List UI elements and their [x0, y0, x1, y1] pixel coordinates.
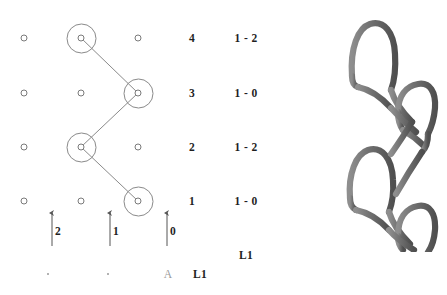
loop-1-leg	[358, 87, 391, 108]
loop-3-leg	[356, 210, 389, 230]
connector-2	[396, 152, 422, 194]
legend-dot-1	[47, 273, 49, 275]
loop-1-head	[352, 23, 396, 90]
legend-dot-2	[107, 273, 109, 275]
loop-3-head	[350, 149, 394, 212]
legend-l1: L1	[193, 268, 207, 280]
legend-a: A	[164, 268, 173, 280]
knitted-loop-structure-render	[336, 4, 447, 252]
figure-canvas: 41 - 231 - 021 - 211 - 0 210 L1AL1	[0, 0, 447, 295]
legend-label-upper: L1	[239, 249, 253, 261]
